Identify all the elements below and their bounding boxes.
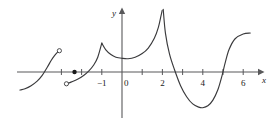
function-graph-figure: x y 0 −1246 xyxy=(0,0,277,133)
graph-canvas xyxy=(0,0,277,133)
y-axis-label: y xyxy=(112,9,116,18)
x-tick-label-4: 4 xyxy=(193,79,213,88)
x-tick-label-2: 2 xyxy=(152,79,172,88)
endpoint-markers xyxy=(57,49,76,86)
open-point-marker-2 xyxy=(64,82,68,86)
axes-group xyxy=(17,8,265,119)
filled-point-marker xyxy=(72,70,76,74)
curve-branch-1 xyxy=(20,51,59,90)
x-axis-label: x xyxy=(262,76,266,85)
open-point-marker-0 xyxy=(57,49,61,53)
x-tick-label-neg1: −1 xyxy=(92,79,112,88)
origin-label: 0 xyxy=(124,79,134,88)
function-curves xyxy=(20,9,250,108)
x-tick-label-6: 6 xyxy=(233,79,253,88)
curve-branch-4 xyxy=(163,9,250,108)
y-axis-arrowhead xyxy=(119,8,125,15)
curve-branch-3 xyxy=(102,10,162,59)
